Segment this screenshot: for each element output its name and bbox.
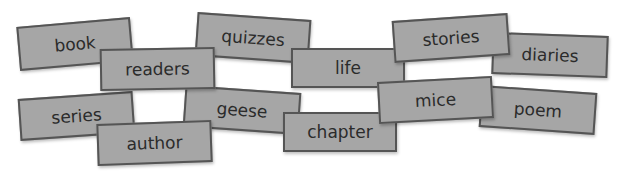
word-label: stories (422, 26, 480, 50)
word-label: poem (513, 98, 562, 121)
word-label: readers (125, 58, 190, 79)
word-card-mice: mice (377, 76, 494, 124)
word-label: quizzes (221, 26, 286, 50)
word-label: series (51, 104, 103, 127)
word-label: life (335, 58, 361, 78)
word-label: mice (414, 89, 456, 111)
word-card-poem: poem (479, 85, 598, 135)
word-label: diaries (521, 44, 579, 66)
word-label: chapter (307, 122, 372, 142)
word-card-stories: stories (392, 13, 511, 63)
word-label: book (53, 32, 96, 56)
word-card-author: author (96, 120, 212, 166)
word-card-readers: readers (100, 47, 216, 91)
word-label: geese (216, 98, 268, 122)
word-label: author (126, 132, 183, 154)
